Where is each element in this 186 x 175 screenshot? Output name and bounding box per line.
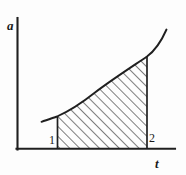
graph-svg (0, 0, 186, 175)
figure-canvas: a t 1 2 (0, 0, 186, 175)
tick-label-t1: 1 (49, 134, 55, 146)
shaded-area-hatching (50, 45, 160, 157)
x-axis-label: t (155, 157, 159, 170)
tick-label-t2: 2 (149, 132, 155, 144)
y-axis-label: a (7, 19, 14, 32)
